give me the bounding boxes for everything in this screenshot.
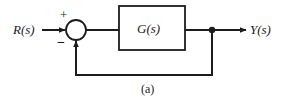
output-signal-label: Y(s) xyxy=(250,23,271,36)
summing-junction-plus-sign: + xyxy=(60,8,67,21)
transfer-function-label: G(s) xyxy=(137,22,160,35)
summing-junction-circle xyxy=(66,20,86,40)
block-diagram-figure: R(s) G(s) Y(s) + − (a) xyxy=(0,0,283,105)
input-signal-label: R(s) xyxy=(13,23,35,36)
summing-junction-minus-sign: − xyxy=(57,36,65,50)
figure-caption: (a) xyxy=(141,83,154,95)
